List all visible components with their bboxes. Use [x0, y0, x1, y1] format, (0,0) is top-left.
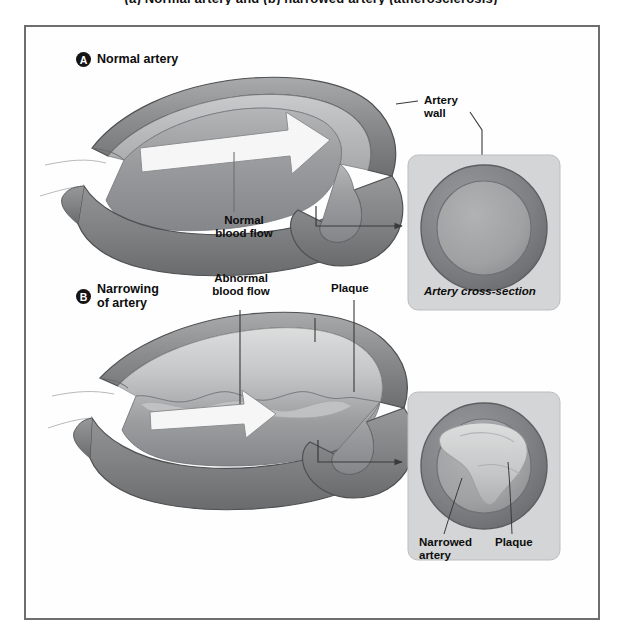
- panel-b-badge-group: B Narrowing of artery: [76, 283, 159, 310]
- leader-artery-wall-left: [396, 101, 418, 104]
- label-artery-wall: Artery wall: [424, 94, 458, 119]
- narrow-cut-edge-lower: [74, 418, 92, 458]
- label-abnormal-blood-flow: Abnormal blood flow: [205, 272, 277, 297]
- label-normal-blood-flow: Normal blood flow: [211, 214, 277, 239]
- label-plaque-inset: Plaque: [495, 536, 533, 549]
- panel-b-title: Narrowing of artery: [97, 283, 159, 310]
- narrow-cut-fade-upper: [52, 392, 114, 396]
- narrowed-artery-illustration: [48, 300, 415, 510]
- panel-a-title: Normal artery: [97, 53, 178, 67]
- panel-a-badge-letter: A: [76, 52, 91, 67]
- panel-a-badge-group: A Normal artery: [76, 52, 178, 67]
- label-narrowed-artery: Narrowed artery: [419, 536, 472, 561]
- artery-cut-fade-upper: [45, 160, 106, 165]
- artery-figure: (a) Normal artery and (b) narrowed arter…: [0, 0, 622, 635]
- inset-a-lumen: [437, 181, 531, 275]
- label-plaque-main: Plaque: [331, 282, 369, 295]
- panel-b-badge-letter: B: [76, 289, 91, 304]
- label-artery-cross-section: Artery cross-section: [424, 285, 536, 298]
- narrowed-cross-section-panel: [408, 392, 560, 560]
